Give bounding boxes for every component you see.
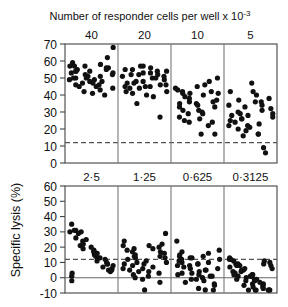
bottom-panel-data-point	[188, 266, 193, 271]
top-panel-data-point	[196, 108, 201, 113]
bottom-panel-data-point	[164, 260, 169, 265]
top-panel-group-label-1: 20	[138, 29, 151, 41]
top-panel-data-point	[138, 64, 143, 69]
chart-title: Number of responder cells per well x 10-…	[50, 9, 251, 22]
bottom-panel-data-point	[141, 261, 146, 266]
top-panel-data-point	[164, 89, 169, 94]
top-panel-data-point	[141, 79, 146, 84]
bottom-panel-group-label-0: 2·5	[83, 171, 100, 183]
top-panel-data-point	[148, 84, 153, 89]
bottom-panel-data-point	[257, 280, 262, 285]
top-panel-data-point	[82, 64, 87, 69]
top-panel-data-point	[256, 132, 261, 137]
bottom-panel-data-point	[189, 271, 194, 276]
top-panel-data-point	[182, 118, 187, 123]
top-panel-data-point	[259, 108, 264, 113]
top-panel-data-point	[270, 115, 275, 120]
top-panel-data-point	[214, 98, 219, 103]
bottom-panel-data-point	[110, 263, 115, 268]
bottom-panel-data-point	[131, 272, 136, 277]
bottom-panel-data-point	[146, 274, 151, 279]
top-panel-data-point	[102, 92, 107, 97]
bottom-panel-data-point	[234, 277, 239, 282]
bottom-panel-data-point	[163, 231, 168, 236]
bottom-panel-data-point	[246, 287, 251, 292]
bottom-panel-data-point	[201, 254, 206, 259]
bottom-panel-data-point	[215, 266, 220, 271]
top-panel-data-point	[263, 150, 268, 155]
bottom-panel-data-point	[196, 286, 201, 291]
bottom-panel-data-point	[261, 261, 266, 266]
top-panel-data-point	[186, 111, 191, 116]
top-panel-data-point	[209, 89, 214, 94]
bottom-panel-data-point	[121, 266, 126, 271]
top-panel-data-point	[228, 118, 233, 123]
top-panel-data-point	[120, 74, 125, 79]
top-panel-ytick-label-0: 0	[50, 157, 57, 171]
bottom-panel-data-point	[69, 278, 74, 283]
bottom-panel-data-point	[176, 258, 181, 263]
bottom-panel-data-point	[125, 248, 130, 253]
top-panel-data-point	[257, 121, 262, 126]
top-panel-data-point	[87, 69, 92, 74]
bottom-panel-data-point	[183, 280, 188, 285]
bottom-panel-data-point	[100, 264, 105, 269]
bottom-panel-data-point	[125, 257, 130, 262]
top-panel-data-point	[245, 113, 250, 118]
bottom-panel-data-point	[196, 272, 201, 277]
top-panel-data-point	[137, 86, 142, 91]
top-panel-data-point	[143, 84, 148, 89]
bottom-panel-ytick-label-50: 50	[44, 195, 58, 209]
bottom-panel-data-point	[89, 245, 94, 250]
bottom-panel-data-point	[217, 257, 222, 262]
top-panel-data-point	[124, 89, 129, 94]
top-panel-data-point	[73, 82, 78, 87]
bottom-panel-group-label-2: 0·625	[183, 171, 212, 183]
bottom-panel-data-point	[241, 283, 246, 288]
bottom-panel-data-point	[122, 261, 127, 266]
top-panel-data-point	[212, 104, 217, 109]
bottom-panel-data-point	[157, 280, 162, 285]
bottom-panel-data-point	[130, 263, 135, 268]
top-panel-data-point	[251, 89, 256, 94]
bottom-panel-data-point	[79, 229, 84, 234]
bottom-panel-data-point	[105, 261, 110, 266]
bottom-panel-data-point	[127, 267, 132, 272]
top-panel-data-point	[104, 65, 109, 70]
bottom-panel-data-point	[121, 243, 126, 248]
top-panel-data-point	[173, 86, 178, 91]
bottom-panel-data-point	[103, 257, 108, 262]
bottom-panel-data-point	[156, 245, 161, 250]
bottom-panel-data-point	[81, 246, 86, 251]
top-panel-data-point	[129, 72, 134, 77]
top-panel-data-point	[123, 67, 128, 72]
top-panel-data-point	[212, 132, 217, 137]
bottom-panel-data-point	[227, 264, 232, 269]
top-panel-data-point	[90, 81, 95, 86]
bottom-panel-data-point	[195, 261, 200, 266]
top-panel-data-point	[98, 87, 103, 92]
bottom-panel-ytick-label-0: 0	[50, 271, 57, 285]
top-panel-group-label-2: 10	[191, 29, 204, 41]
top-panel-data-point	[268, 106, 273, 111]
top-panel-data-point	[98, 74, 103, 79]
scatter-figure: Number of responder cells per well x 10-…	[0, 0, 288, 307]
bottom-panel-data-point	[181, 264, 186, 269]
top-panel-data-point	[266, 96, 271, 101]
top-panel-data-point	[73, 69, 78, 74]
bottom-panel-data-point	[177, 254, 182, 259]
bottom-panel-data-point	[175, 263, 180, 268]
top-panel-data-point	[130, 91, 135, 96]
bottom-panel-data-point	[231, 272, 236, 277]
top-panel-data-point	[200, 111, 205, 116]
bottom-panel-data-point	[69, 222, 74, 227]
bottom-panel-data-point	[188, 255, 193, 260]
top-panel-data-point	[242, 104, 247, 109]
top-panel-data-point	[177, 104, 182, 109]
y-axis-label: Specific lysis (%)	[9, 183, 23, 277]
bottom-panel-data-point	[136, 269, 141, 274]
top-panel-data-point	[187, 120, 192, 125]
bottom-panel-data-point	[243, 278, 248, 283]
top-panel-data-point	[197, 116, 202, 121]
top-panel-ytick-label-50: 50	[44, 72, 58, 86]
